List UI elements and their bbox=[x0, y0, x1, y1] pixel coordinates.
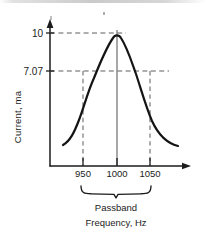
y-value-half-label: 7.07 bbox=[24, 66, 44, 77]
passband-label: Passband bbox=[95, 202, 137, 213]
passband-brace-icon bbox=[81, 186, 151, 198]
x-axis-title: Frequency, Hz bbox=[85, 217, 146, 228]
x-axis-arrow-icon bbox=[182, 163, 191, 170]
vertical-marker-lines bbox=[83, 30, 150, 165]
x-tick-label-1050: 1050 bbox=[139, 168, 160, 179]
y-axis-arrow-icon bbox=[47, 19, 54, 28]
resonance-curve-path bbox=[63, 35, 178, 146]
resonance-curve-figure: 10 7.07 950 1000 1050 Current, ma Passba… bbox=[0, 0, 206, 236]
y-axis-title: Current, ma bbox=[12, 90, 23, 143]
axes-group bbox=[47, 19, 191, 169]
x-tick-label-1000: 1000 bbox=[106, 168, 127, 179]
x-tick-label-950: 950 bbox=[75, 168, 91, 179]
y-value-top-label: 10 bbox=[32, 28, 44, 39]
horizontal-gridlines bbox=[50, 33, 169, 71]
x-axis-ticks bbox=[83, 158, 150, 166]
